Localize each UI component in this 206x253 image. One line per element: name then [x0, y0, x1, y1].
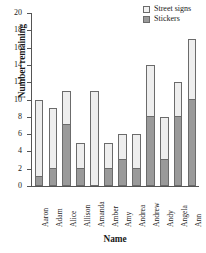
street-signs-swatch-icon — [143, 6, 150, 13]
bar-segment-stickers — [189, 99, 196, 186]
y-axis-tick-label: 8 — [18, 113, 22, 121]
x-axis-tick-label: Amy — [125, 212, 133, 227]
bar-segment-stickers — [63, 124, 70, 185]
x-axis-tick-label: Andrea — [139, 205, 147, 227]
y-axis-tick: 4 — [27, 151, 31, 152]
legend-label-street-signs: Street signs — [154, 5, 191, 13]
x-axis-tick-label: Amber — [112, 206, 120, 227]
bar-segment-stickers — [133, 168, 140, 185]
y-axis-tick-label: 12 — [14, 78, 22, 86]
bar-segment-stickers — [147, 116, 154, 185]
bar-street-signs — [174, 82, 183, 186]
bar-slot — [74, 13, 88, 186]
x-axis-tick-label: Allison — [84, 205, 92, 227]
bar-segment-stickers — [36, 176, 43, 185]
y-axis-tick-label: 20 — [14, 9, 22, 17]
y-axis-tick-label: 10 — [14, 96, 22, 104]
y-axis-tick: 2 — [27, 169, 31, 170]
x-axis-tick-label: Andy — [167, 210, 175, 227]
bar-street-signs — [35, 100, 44, 187]
bar-street-signs — [49, 108, 58, 186]
y-axis-tick: 8 — [27, 117, 31, 118]
legend-item-stickers: Stickers — [143, 15, 191, 23]
y-axis-tick: 0 — [27, 186, 31, 187]
y-axis-tick: 6 — [27, 134, 31, 135]
bar-slot — [171, 13, 185, 186]
y-axis-tick: 12 — [27, 82, 31, 83]
legend-label-stickers: Stickers — [154, 15, 180, 23]
bar-street-signs — [188, 39, 197, 186]
bar-segment-stickers — [77, 168, 84, 185]
bar-slot — [88, 13, 102, 186]
bar-slot — [116, 13, 130, 186]
bar-series-layer — [32, 13, 199, 186]
y-axis-tick: 14 — [27, 65, 31, 66]
bar-street-signs — [104, 143, 113, 186]
y-axis-tick: 10 — [27, 100, 31, 101]
bar-segment-stickers — [161, 159, 168, 185]
bar-slot — [60, 13, 74, 186]
plot-area: 02468101214161820 — [31, 13, 199, 187]
y-axis-tick-label: 6 — [18, 130, 22, 138]
legend-item-street-signs: Street signs — [143, 5, 191, 13]
y-axis-tick-label: 14 — [14, 61, 22, 69]
bar-slot — [46, 13, 60, 186]
x-axis-line — [31, 186, 199, 187]
bar-street-signs — [160, 117, 169, 186]
x-axis-tick-label: Alice — [70, 211, 78, 227]
x-axis-tick-labels: AaronAdamAliceAllisonAmandaAmberAmyAndre… — [32, 189, 199, 229]
bar-street-signs — [146, 65, 155, 186]
bar-segment-stickers — [105, 168, 112, 185]
x-axis-tick-label: Amanda — [98, 201, 106, 227]
bar-segment-stickers — [50, 168, 57, 185]
bar-street-signs — [118, 134, 127, 186]
bar-street-signs — [62, 91, 71, 186]
bar-street-signs — [132, 134, 141, 186]
y-axis-tick-label: 2 — [18, 165, 22, 173]
bar-slot — [32, 13, 46, 186]
stickers-swatch-icon — [143, 16, 150, 23]
x-axis-tick-label: Adam — [56, 208, 64, 227]
chart-legend: Street signs Stickers — [143, 5, 191, 25]
bar-slot — [129, 13, 143, 186]
x-axis-tick-label: Andrew — [153, 203, 161, 227]
x-axis-tick-label: Ann — [195, 214, 203, 227]
y-axis-tick-label: 4 — [18, 147, 22, 155]
y-axis-tick-label: 0 — [18, 182, 22, 190]
x-axis-tick-label: Aaron — [42, 208, 50, 227]
x-axis-tick-label: Angela — [181, 205, 189, 227]
y-axis-tick: 18 — [27, 30, 31, 31]
bar-segment-stickers — [119, 159, 126, 185]
x-axis-title: Name — [31, 234, 199, 244]
bar-street-signs — [90, 91, 99, 186]
bar-street-signs — [76, 143, 85, 186]
bar-slot — [157, 13, 171, 186]
y-axis-tick: 16 — [27, 48, 31, 49]
bar-slot — [143, 13, 157, 186]
bar-slot — [102, 13, 116, 186]
stacked-bar-chart: Number remaining 02468101214161820 Aaron… — [0, 0, 206, 253]
bar-slot — [185, 13, 199, 186]
y-axis-tick-label: 18 — [14, 26, 22, 34]
y-axis-tick: 20 — [27, 13, 31, 14]
y-axis-tick-label: 16 — [14, 44, 22, 52]
bar-segment-stickers — [175, 116, 182, 185]
